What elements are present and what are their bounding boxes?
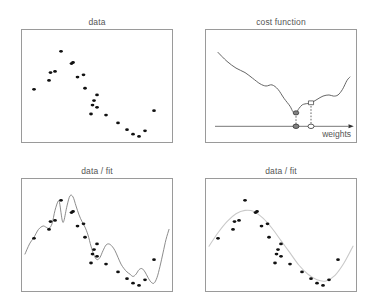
data-point (53, 219, 57, 222)
data-point (53, 70, 57, 73)
panel-fit-wiggly: data / fit (21, 166, 173, 292)
curve-minimum-marker (293, 111, 299, 115)
scatter-points (32, 199, 156, 287)
cost-curve (218, 52, 350, 113)
panel-cost: cost function weights (205, 17, 357, 143)
weights-axis-arrow-icon (349, 124, 354, 128)
data-point (300, 271, 304, 274)
data-point (95, 106, 99, 109)
data-point (95, 255, 99, 258)
data-point (83, 87, 87, 90)
data-point (216, 237, 220, 240)
panel-fit-smooth: data / fit (205, 166, 357, 292)
data-point (315, 282, 319, 285)
panel-cost-axes: weights (205, 29, 357, 143)
panel-fit-wiggly-title: data / fit (21, 166, 173, 176)
curve-candidate-marker (308, 101, 313, 105)
panel-cost-title: cost function (205, 17, 357, 27)
panel-fit-wiggly-axes (21, 178, 173, 292)
fit-curve-smooth (209, 210, 353, 281)
data-point (82, 73, 86, 76)
data-point (92, 248, 96, 251)
data-point (92, 99, 96, 102)
scatter-points (32, 50, 156, 138)
data-point (95, 243, 99, 246)
data-point (152, 258, 156, 261)
data-point (116, 271, 120, 274)
panel-data-title: data (21, 17, 173, 27)
panel-fit-smooth-axes (205, 178, 357, 292)
fit-curve-wiggly (25, 195, 169, 283)
data-point (32, 237, 36, 240)
data-point (309, 277, 313, 280)
axis-marker-filled (293, 124, 299, 128)
data-point (273, 262, 277, 265)
data-point (104, 114, 108, 117)
data-point (231, 228, 235, 231)
panel-data-axes (21, 29, 173, 143)
data-point (279, 243, 283, 246)
figure-root: data cost function weights data / fit (0, 0, 372, 304)
scatter-points (216, 199, 340, 287)
data-point (131, 133, 135, 136)
data-point (47, 79, 51, 82)
data-point (267, 236, 271, 239)
data-point (91, 253, 95, 256)
data-point (32, 88, 36, 91)
data-point (125, 277, 129, 280)
data-point (288, 263, 292, 266)
data-point (125, 128, 129, 131)
data-point (47, 228, 51, 231)
data-point (152, 109, 156, 112)
data-point (137, 135, 141, 138)
weights-axis-label: weights (322, 129, 351, 139)
data-point (243, 199, 247, 202)
data-point (276, 248, 280, 251)
data-point (131, 282, 135, 285)
panel-data-plot (22, 30, 172, 142)
data-point (59, 50, 63, 53)
data-point (49, 220, 53, 223)
data-point (76, 225, 80, 228)
data-point (71, 61, 75, 64)
data-point (233, 220, 237, 223)
data-point (83, 236, 87, 239)
panel-cost-plot (206, 30, 356, 142)
data-point (71, 210, 75, 213)
data-point (91, 104, 95, 107)
data-point (275, 253, 279, 256)
data-point (255, 210, 259, 213)
data-point (260, 225, 264, 228)
data-point (327, 278, 331, 281)
cost-markers (293, 101, 314, 129)
axis-marker-open (308, 124, 314, 128)
data-point (76, 76, 80, 79)
data-point (59, 199, 63, 202)
data-point (89, 113, 93, 116)
panel-data: data (21, 17, 173, 143)
panel-fit-smooth-plot (206, 179, 356, 291)
data-point (95, 94, 99, 97)
data-point (279, 255, 283, 258)
data-point (137, 284, 141, 287)
data-point (321, 284, 325, 287)
data-point (143, 278, 147, 281)
panel-fit-wiggly-plot (22, 179, 172, 291)
data-point (266, 222, 270, 225)
data-point (237, 219, 241, 222)
data-point (49, 71, 53, 74)
data-point (104, 263, 108, 266)
panel-fit-smooth-title: data / fit (205, 166, 357, 176)
data-point (82, 222, 86, 225)
data-point (89, 262, 93, 265)
data-point (143, 129, 147, 132)
data-point (116, 122, 120, 125)
data-point (336, 258, 340, 261)
